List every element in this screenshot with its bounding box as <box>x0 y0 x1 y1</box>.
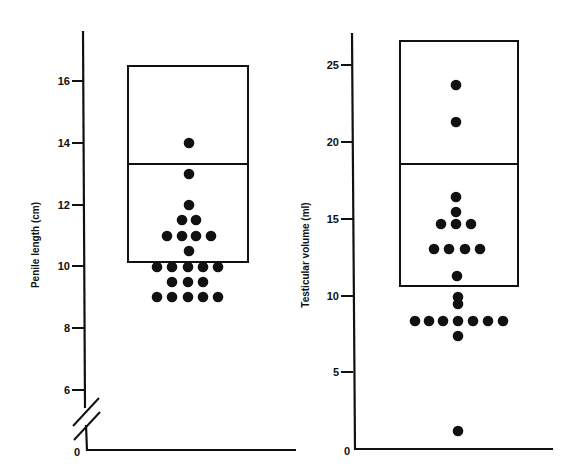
left-y-ticks: 1614121086 <box>58 75 84 396</box>
left-reference-box <box>128 66 248 262</box>
right-data-point <box>475 244 486 255</box>
left-data-point <box>177 215 188 226</box>
left-data-point <box>191 215 202 226</box>
penile-length-chart: Penile length (cm) 1614121086 0 <box>30 31 295 458</box>
left-data-point <box>184 169 195 180</box>
left-data-point <box>177 231 188 242</box>
right-tick-label: 10 <box>327 290 339 302</box>
right-tick-label: 15 <box>327 213 339 225</box>
left-tick-label: 14 <box>58 137 71 149</box>
right-data-point <box>466 219 477 230</box>
chart-figure: Penile length (cm) 1614121086 0 Testicul… <box>0 0 574 473</box>
right-data-point <box>451 117 462 128</box>
left-data-point <box>167 292 178 303</box>
right-data-point <box>452 271 463 282</box>
left-data-point <box>152 292 163 303</box>
left-data-point <box>167 262 178 273</box>
left-data-point <box>198 292 209 303</box>
right-data-point <box>453 426 464 437</box>
right-reference-box <box>400 41 518 286</box>
left-data-point <box>152 262 163 273</box>
left-data-point <box>206 231 217 242</box>
right-tick-label: 20 <box>327 136 339 148</box>
right-data-point <box>468 316 479 327</box>
right-data-point <box>438 316 449 327</box>
left-data-point <box>162 231 173 242</box>
left-tick-label: 10 <box>58 260 70 272</box>
right-data-point <box>451 219 462 230</box>
left-data-point <box>184 138 195 149</box>
left-y-axis-title: Penile length (cm) <box>30 202 41 288</box>
right-y-axis <box>352 33 355 450</box>
right-data-point <box>410 316 421 327</box>
right-data-point <box>451 207 462 218</box>
left-tick-label: 6 <box>64 384 70 396</box>
right-data-point <box>451 80 462 91</box>
right-data-point <box>453 331 464 342</box>
right-data-point <box>436 219 447 230</box>
left-data-point <box>213 292 224 303</box>
right-data-point <box>453 316 464 327</box>
left-tick-label: 12 <box>58 199 70 211</box>
right-data-point <box>429 244 440 255</box>
left-data-point <box>198 277 209 288</box>
left-data-point <box>198 262 209 273</box>
right-data-point <box>498 316 509 327</box>
right-data-point <box>460 244 471 255</box>
right-zero-label: 0 <box>344 445 350 457</box>
left-data-point <box>184 200 195 211</box>
right-data-point <box>451 192 462 203</box>
right-tick-label: 5 <box>333 366 339 378</box>
right-y-axis-title: Testicular volume (ml) <box>300 202 311 307</box>
left-tick-label: 16 <box>58 75 70 87</box>
right-data-point <box>453 299 464 310</box>
left-data-point <box>183 277 194 288</box>
left-data-points <box>152 138 224 303</box>
left-data-point <box>191 231 202 242</box>
left-data-point <box>213 262 224 273</box>
testicular-volume-chart: Testicular volume (ml) 252015105 0 <box>300 33 553 457</box>
right-data-points <box>410 80 509 437</box>
right-data-point <box>444 244 455 255</box>
right-data-point <box>483 316 494 327</box>
right-y-ticks: 252015105 <box>327 59 353 378</box>
left-y-axis <box>83 31 85 408</box>
left-tick-label: 8 <box>64 322 70 334</box>
left-data-point <box>183 292 194 303</box>
left-data-point <box>183 262 194 273</box>
right-data-point <box>424 316 435 327</box>
right-tick-label: 25 <box>327 59 339 71</box>
left-zero-label: 0 <box>74 446 80 458</box>
left-data-point <box>184 246 195 257</box>
left-data-point <box>167 277 178 288</box>
left-y-axis-lower <box>86 425 87 451</box>
